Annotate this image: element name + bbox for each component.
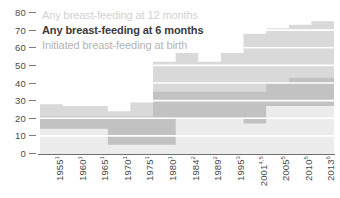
y-tick-10: 10	[15, 130, 38, 142]
x-tick-label-1970: 19701	[122, 156, 133, 181]
y-tick-mark	[29, 83, 36, 84]
x-tick-note: 1	[54, 156, 60, 159]
x-tick-note: 1	[76, 156, 82, 159]
legend-label: Any breast-feeding at 12 months	[42, 9, 198, 21]
x-tick-label-1955: 19551	[54, 156, 65, 181]
y-tick-mark	[29, 135, 36, 136]
y-tick-mark	[29, 47, 36, 48]
x-tick-label-2013: 20136	[325, 156, 336, 181]
y-tick-mark	[29, 118, 36, 119]
y-tick-label: 20	[15, 113, 26, 124]
x-tick-note: 1	[167, 156, 173, 159]
x-tick-label-1965: 19651	[99, 156, 110, 181]
x-tick-year: 1960	[77, 159, 88, 181]
x-tick-year: 1955	[54, 159, 65, 181]
y-tick-50: 50	[15, 59, 38, 71]
x-axis-line	[38, 154, 335, 155]
x-tick-note: 5	[303, 156, 309, 159]
x-tick-label-1980: 19801	[167, 156, 178, 181]
x-tick-year: 1984	[190, 159, 201, 181]
y-tick-mark	[29, 12, 36, 13]
legend-label: Any breast-feeding at 6 months	[42, 24, 203, 36]
x-tick-note: 1	[99, 156, 105, 159]
y-tick-0: 0	[21, 148, 38, 160]
x-tick-note: 6	[325, 156, 331, 159]
x-tick-label-2005: 20055	[280, 156, 291, 181]
y-tick-60: 60	[15, 42, 38, 54]
x-tick-year: 2005	[280, 159, 291, 181]
x-tick-label-1995: 19953	[235, 156, 246, 181]
y-tick-mark	[29, 65, 36, 66]
y-tick-mark	[29, 30, 36, 31]
legend-item-2[interactable]: Initiated breast-feeding at birth	[42, 37, 203, 52]
y-tick-label: 30	[15, 95, 26, 106]
x-tick-label-1975: 19751	[144, 156, 155, 181]
x-tick-label-1960: 19601	[77, 156, 88, 181]
x-tick-note: 1	[122, 156, 128, 159]
x-tick-year: 2001	[258, 165, 269, 187]
y-tick-label: 40	[15, 78, 26, 89]
x-tick-label-1989: 19892	[212, 156, 223, 181]
x-tick-label-1984: 19842	[190, 156, 201, 181]
x-tick-note: 2	[190, 156, 196, 159]
x-tick-note: 4,5	[257, 156, 263, 165]
y-tick-70: 70	[15, 24, 38, 36]
x-tick-year: 1975	[144, 159, 155, 181]
x-tick-label-2001: 20014,5	[258, 156, 269, 186]
y-tick-label: 0	[21, 148, 26, 159]
x-tick-year: 1995	[235, 159, 246, 181]
y-tick-40: 40	[15, 77, 38, 89]
legend: Any breast-feeding at 12 monthsAny breas…	[42, 7, 203, 52]
y-tick-label: 60	[15, 42, 26, 53]
y-tick-80: 80	[15, 7, 38, 19]
x-tick-year: 1980	[167, 159, 178, 181]
x-tick-year: 2010	[303, 159, 314, 181]
breast-feeding-rates-chart: 80706050403020100 Any breast-feeding at …	[0, 0, 340, 198]
x-tick-note: 2	[212, 156, 218, 159]
y-tick-label: 50	[15, 60, 26, 71]
legend-item-0[interactable]: Any breast-feeding at 12 months	[42, 7, 203, 22]
y-tick-label: 10	[15, 130, 26, 141]
x-tick-note: 1	[144, 156, 150, 159]
x-tick-year: 1989	[212, 159, 223, 181]
y-tick-mark	[29, 153, 36, 154]
y-tick-30: 30	[15, 95, 38, 107]
x-tick-label-2010: 20105	[303, 156, 314, 181]
legend-item-1[interactable]: Any breast-feeding at 6 months	[42, 22, 203, 37]
x-tick-year: 2013	[325, 159, 336, 181]
x-axis: 1955119601196511970119751198011984219892…	[40, 156, 334, 198]
y-tick-mark	[29, 100, 36, 101]
y-tick-label: 80	[15, 7, 26, 18]
y-tick-20: 20	[15, 112, 38, 124]
legend-label: Initiated breast-feeding at birth	[42, 39, 187, 51]
x-tick-year: 1970	[122, 159, 133, 181]
y-axis: 80706050403020100	[0, 0, 38, 160]
x-tick-note: 3	[235, 156, 241, 159]
x-tick-year: 1965	[99, 159, 110, 181]
y-tick-label: 70	[15, 25, 26, 36]
x-tick-note: 5	[280, 156, 286, 159]
